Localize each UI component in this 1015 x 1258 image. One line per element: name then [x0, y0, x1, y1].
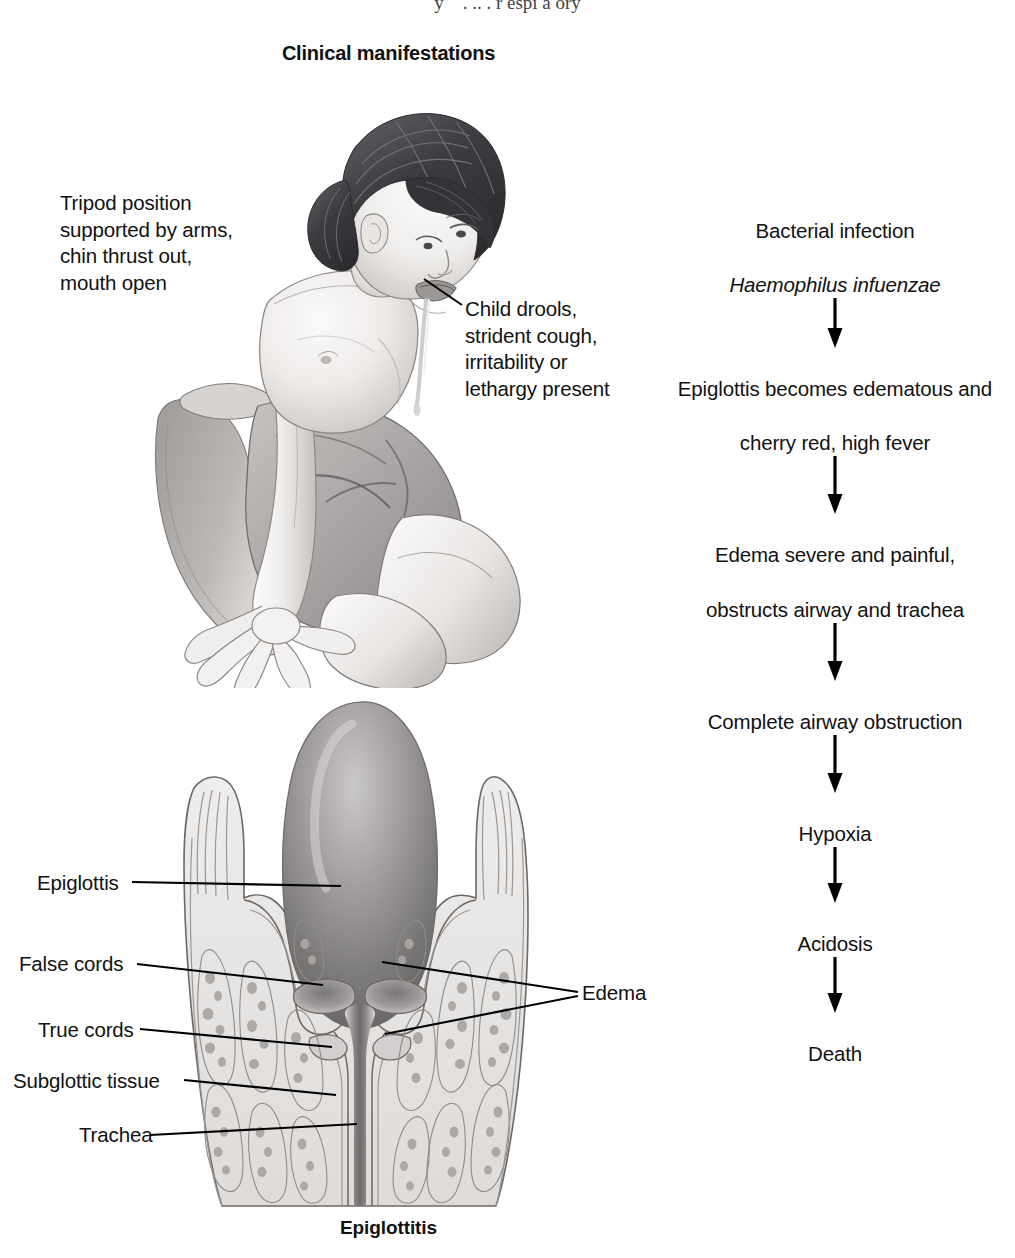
figure-caption: Epiglottitis	[0, 1216, 777, 1241]
page-title: Clinical manifestations	[0, 40, 777, 66]
annotation-tripod-position: Tripod position supported by arms, chin …	[60, 190, 360, 297]
flow-node-complete-obstruction: Complete airway obstruction	[660, 681, 1010, 735]
pathophysiology-flowchart: Bacterial infection Haemophilus infuenza…	[660, 190, 1010, 1067]
arrow-down-icon-3	[660, 623, 1010, 681]
flow-node-hypoxia: Hypoxia	[660, 793, 1010, 847]
label-epiglottis: Epiglottis	[37, 870, 119, 897]
arrow-down-icon-2	[660, 456, 1010, 514]
flow-node-line1: Bacterial infection	[756, 219, 915, 242]
larynx-cross-section-illustration	[148, 688, 572, 1210]
label-false-cords: False cords	[19, 951, 123, 978]
figure-page: y . .. . r espi a ory Clinical manifesta…	[0, 0, 1015, 1258]
arrow-down-icon-6	[660, 957, 1010, 1013]
flow-node-line2: cherry red, high fever	[740, 431, 930, 454]
arrow-down-icon-1	[660, 298, 1010, 348]
flow-node-line2-scientific-name: Haemophilus infuenzae	[729, 273, 940, 296]
flow-node-epiglottis-edematous: Epiglottis becomes edematous and cherry …	[660, 348, 1010, 456]
flow-node-death: Death	[660, 1013, 1010, 1067]
page-top-cutoff-text: y . .. . r espi a ory	[0, 0, 1015, 16]
flow-node-line2: obstructs airway and trachea	[706, 598, 964, 621]
label-edema: Edema	[582, 980, 646, 1007]
flow-node-acidosis: Acidosis	[660, 903, 1010, 957]
label-true-cords: True cords	[38, 1017, 134, 1044]
label-trachea: Trachea	[79, 1122, 152, 1149]
flow-node-line1: Acidosis	[797, 932, 872, 955]
flow-node-line1: Epiglottis becomes edematous and	[678, 377, 992, 400]
arrow-down-icon-5	[660, 847, 1010, 903]
flow-node-line1: Edema severe and painful,	[715, 543, 955, 566]
flow-node-line1: Complete airway obstruction	[708, 710, 963, 733]
flow-node-edema-severe: Edema severe and painful, obstructs airw…	[660, 514, 1010, 622]
flow-node-line1: Hypoxia	[798, 822, 871, 845]
flow-node-line1: Death	[808, 1042, 862, 1065]
flow-node-bacterial-infection: Bacterial infection Haemophilus infuenza…	[660, 190, 1010, 298]
label-subglottic-tissue: Subglottic tissue	[13, 1068, 160, 1095]
arrow-down-icon-4	[660, 735, 1010, 793]
